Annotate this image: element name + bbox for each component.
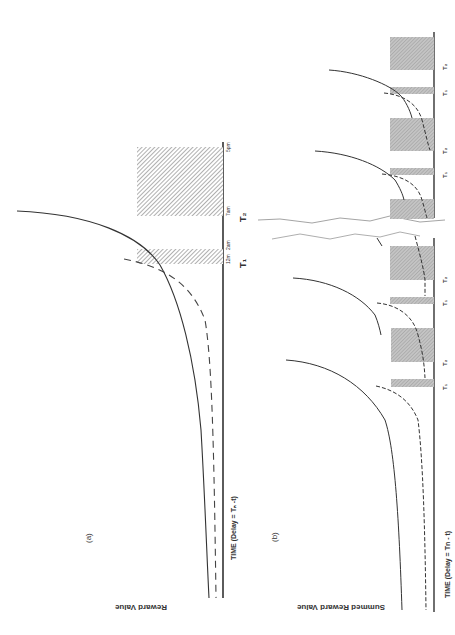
panel-a-label: (a) — [84, 533, 93, 543]
panel-b-t2-region-2 — [390, 246, 434, 280]
panel-a-tick-2am: 2am — [225, 240, 231, 250]
panel-b-t1-region-1 — [391, 379, 434, 387]
panel-a-tick-12m: 12m — [225, 254, 231, 264]
panel-a-marker-t1: T₁ — [238, 259, 248, 268]
panel-a-ylabel: Reward Value — [114, 603, 167, 612]
panel-a-xlabel: TIME (Delay = Tₙ -t) — [230, 496, 238, 560]
panel-a-tick-5pm: 5pm — [225, 142, 231, 152]
panel-a-t1-region — [137, 249, 223, 264]
panel-b-marker-t1-1: T₁ — [442, 383, 448, 390]
panel-b-t1-region-4 — [390, 87, 434, 94]
panel-b-t1-region-3 — [390, 168, 434, 175]
panel-a-tick-7am: 7am — [225, 206, 231, 216]
panel-b-marker-t1-3: T₁ — [442, 171, 448, 178]
panel-b-marker-t2-1: T₂ — [442, 359, 448, 366]
panel-b-partial-region — [390, 199, 434, 219]
panel-b-solid-curve-2 — [293, 278, 381, 335]
panel-b-marker-t2-3: T₂ — [442, 147, 448, 154]
panel-b-break-tick — [377, 238, 382, 246]
panel-b-label: (b) — [270, 532, 279, 542]
panel-a: 12m 2am 7am 5pm T₁ T₂ TIME (Delay = Tₙ -… — [17, 142, 248, 612]
panel-b-axis-break-lower — [272, 232, 420, 239]
panel-b-ylabel: Summed Reward Value — [296, 603, 385, 612]
panel-b-solid-curve-1 — [286, 360, 402, 610]
panel-b-t2-region-4 — [390, 37, 434, 70]
panel-a-marker-t2: T₂ — [238, 213, 248, 223]
panel-a-dashed-curve — [124, 259, 216, 598]
panel-b: T₂ T₁ T₂ T₁ T₂ T₁ T₂ T₁ TIME (Delay = Tn… — [258, 32, 452, 612]
panel-b-t2-region-3 — [390, 118, 434, 151]
panel-b-marker-t1-4: T₁ — [442, 89, 448, 96]
figure-canvas: 12m 2am 7am 5pm T₁ T₂ TIME (Delay = Tₙ -… — [0, 0, 455, 635]
panel-b-t2-region-1 — [391, 328, 434, 362]
panel-b-t1-region-2 — [390, 297, 434, 304]
panel-b-xlabel: TIME (Delay = Tn - t) — [444, 531, 452, 598]
panel-b-marker-t1-2: T₁ — [442, 299, 448, 306]
panel-a-t2-region — [137, 147, 223, 216]
panel-b-marker-t2-2: T₂ — [442, 276, 448, 283]
panel-b-solid-curve-4 — [329, 70, 412, 118]
panel-a-solid-curve — [17, 211, 209, 598]
panel-b-marker-t2-4: T₂ — [442, 63, 448, 70]
